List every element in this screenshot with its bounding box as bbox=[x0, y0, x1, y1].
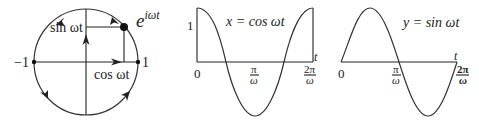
svg-text:eiωt: eiωt bbox=[136, 8, 160, 31]
cos-y-tick-1: 1 bbox=[187, 18, 194, 33]
one-label: 1 bbox=[142, 55, 149, 70]
sin-pi-den: ω bbox=[392, 74, 400, 86]
point-minus-one bbox=[32, 60, 36, 64]
sin-2pi-den: ω bbox=[459, 74, 467, 86]
cos-t-label: t bbox=[314, 50, 318, 64]
euler-base: e bbox=[136, 10, 144, 31]
euler-exponent: iωt bbox=[144, 8, 160, 22]
circle-arrow-lower-left-icon bbox=[40, 90, 48, 99]
sin-origin-label: 0 bbox=[338, 66, 345, 81]
sin-label: sin ωt bbox=[50, 20, 83, 35]
sin-plot-title: y = sin ωt bbox=[401, 15, 460, 30]
svg-text:cos ωt: cos ωt bbox=[94, 67, 129, 82]
cos-origin-label: 0 bbox=[194, 66, 201, 81]
sin-t-label: t bbox=[454, 49, 458, 63]
svg-text:sin ωt: sin ωt bbox=[50, 20, 83, 35]
point-one bbox=[136, 60, 140, 64]
cosine-plot: x = cos ωt 1 0 t π ω 2π ω bbox=[187, 8, 318, 116]
minus-one-label: −1 bbox=[14, 55, 29, 70]
cos-label: cos ωt bbox=[94, 67, 129, 82]
cos-plot-title: x = cos ωt bbox=[225, 14, 286, 29]
cos-2pi-den: ω bbox=[306, 74, 314, 86]
cos-pi-den: ω bbox=[250, 74, 258, 86]
sine-plot: y = sin ωt 0 t π ω 2π ω bbox=[338, 8, 469, 116]
unit-circle-diagram: sin ωt cos ωt −1 1 eiωt bbox=[14, 8, 160, 115]
rotating-point bbox=[120, 23, 128, 31]
figure: sin ωt cos ωt −1 1 eiωt x = cos ωt 1 0 t… bbox=[0, 0, 479, 125]
